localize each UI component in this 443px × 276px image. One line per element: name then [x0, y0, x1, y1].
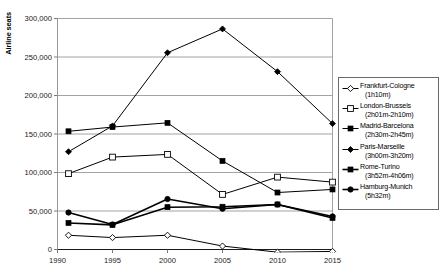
legend-marker-filled-square-icon	[342, 123, 359, 134]
y-tick-label: 0	[48, 245, 52, 254]
x-tick-label: 2015	[324, 256, 341, 265]
series-line	[69, 123, 333, 193]
y-tick-label: 100,000	[25, 168, 52, 177]
y-tick-label: 300,000	[25, 14, 52, 23]
series-line	[69, 199, 333, 224]
data-point	[330, 214, 335, 219]
data-series-group	[65, 26, 335, 255]
series-hamburg-munich	[66, 196, 335, 227]
legend-label: Paris-Marseille	[360, 143, 414, 152]
data-point	[165, 205, 170, 210]
legend-duration: (1h10m)	[360, 91, 415, 100]
chart-container: Airline seats 050,000100,000150,000200,0…	[0, 0, 443, 276]
data-point	[110, 154, 116, 160]
data-point	[220, 158, 225, 163]
data-point	[66, 171, 72, 177]
data-point	[274, 249, 280, 255]
legend-marker-filled-square-bold-icon	[342, 164, 359, 175]
legend-item[interactable]: Frankfurt-Cologne(1h10m)	[342, 82, 436, 100]
data-point	[275, 174, 281, 180]
data-point	[275, 202, 280, 207]
legend-item[interactable]: Paris-Marseille(3h00m-3h20m)	[342, 143, 436, 161]
data-point	[330, 179, 336, 185]
x-tick-label: 1995	[104, 256, 121, 265]
x-tick-label: 2010	[269, 256, 286, 265]
y-tick-label: 250,000	[25, 53, 52, 62]
x-tick-label: 2000	[159, 256, 176, 265]
legend-label: Rome-Turino	[360, 163, 414, 172]
data-point	[219, 243, 225, 249]
data-point	[65, 232, 71, 238]
legend-duration: (5h32m)	[360, 192, 412, 201]
legend-duration: (2h01m-2h10m)	[360, 111, 414, 120]
y-tick-label: 50,000	[29, 207, 52, 216]
series-line	[69, 154, 333, 194]
legend-label: Frankfurt-Cologne	[360, 82, 415, 91]
data-point	[330, 187, 335, 192]
y-tick-label: 200,000	[25, 91, 52, 100]
legend-marker-filled-diamond-icon	[342, 144, 359, 155]
legend-marker-open-square-icon	[342, 103, 359, 114]
legend-item[interactable]: Rome-Turino(3h52m-4h06m)	[342, 163, 436, 181]
data-point	[220, 206, 225, 211]
data-point	[165, 120, 170, 125]
legend-item[interactable]: London-Brussels(2h01m-2h10m)	[342, 102, 436, 120]
y-tick-label: 150,000	[25, 130, 52, 139]
data-point	[220, 192, 226, 198]
legend-duration: (3h00m-3h20m)	[360, 152, 414, 161]
data-point	[66, 220, 71, 225]
data-point	[66, 129, 71, 134]
x-tick-label: 2005	[214, 256, 231, 265]
x-tick-label: 1990	[49, 256, 66, 265]
data-point	[109, 234, 115, 240]
series-london-brussels	[66, 152, 336, 198]
series-line	[69, 29, 333, 152]
data-point	[110, 222, 115, 227]
series-frankfurt-cologne	[65, 232, 335, 255]
legend-item[interactable]: Hamburg-Munich(5h32m)	[342, 183, 436, 201]
legend-duration: (3h52m-4h06m)	[360, 172, 414, 181]
data-point	[165, 196, 170, 201]
y-axis-tick-labels: 050,000100,000150,000200,000250,000300,0…	[25, 14, 58, 254]
legend-item[interactable]: Madrid-Barcelona(2h30m-2h45m)	[342, 122, 436, 140]
legend-label: Hamburg-Munich	[360, 183, 412, 192]
legend-marker-open-diamond-icon	[342, 83, 359, 94]
data-point	[275, 190, 280, 195]
legend-duration: (2h30m-2h45m)	[360, 131, 414, 140]
data-point	[66, 149, 72, 155]
chart-legend: Frankfurt-Cologne(1h10m)London-Brussels(…	[338, 77, 439, 210]
legend-marker-filled-circle-icon	[342, 184, 359, 195]
series-madrid-barcelona	[66, 120, 335, 195]
data-point	[66, 210, 71, 215]
series-paris-marseille	[66, 26, 336, 155]
legend-label: Madrid-Barcelona	[360, 122, 414, 131]
legend-label: London-Brussels	[360, 102, 414, 111]
data-point	[165, 152, 171, 158]
data-point	[164, 232, 170, 238]
